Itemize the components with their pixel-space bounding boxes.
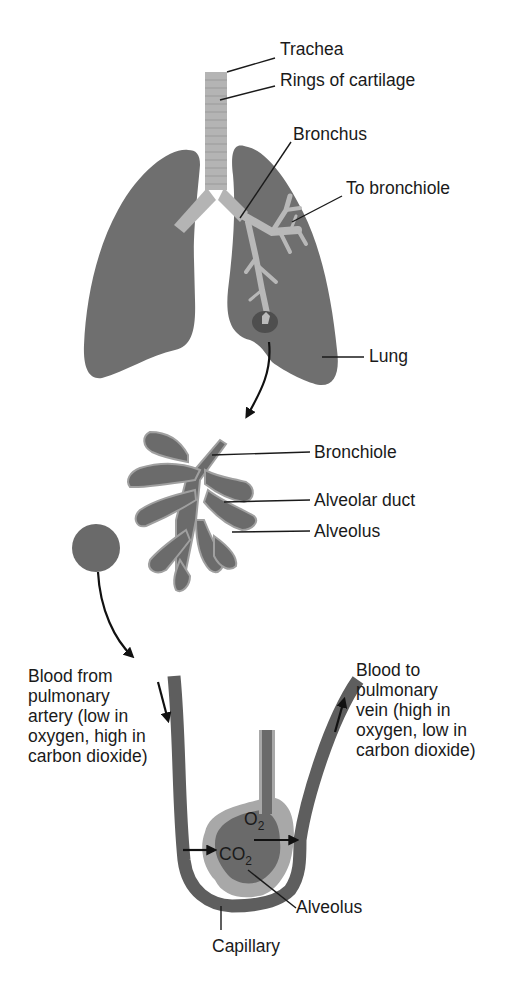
alveolus-sphere <box>72 524 120 572</box>
label-rings-of-cartilage: Rings of cartilage <box>280 70 415 90</box>
trachea <box>205 72 227 190</box>
arrow-blood-in <box>158 682 168 720</box>
respiratory-system-diagram: Trachea Rings of cartilage Bronchus To b… <box>0 0 520 994</box>
bronchiole-cluster <box>128 432 256 591</box>
label-alveolar-duct: Alveolar duct <box>314 490 415 510</box>
label-trachea: Trachea <box>280 39 344 59</box>
label-alveolus-top: Alveolus <box>314 521 380 541</box>
arrow-alveolus-to-capillary <box>98 572 132 656</box>
right-lung <box>227 146 338 385</box>
label-blood-from-artery: Blood from pulmonary artery (low in oxyg… <box>28 666 151 766</box>
label-blood-to-vein: Blood to pulmonary vein (high in oxygen,… <box>356 660 476 760</box>
label-capillary: Capillary <box>212 936 280 956</box>
label-lung: Lung <box>369 346 408 366</box>
label-to-bronchiole: To bronchiole <box>346 178 450 198</box>
label-alveolus-bottom: Alveolus <box>296 897 362 917</box>
label-bronchiole: Bronchiole <box>314 442 397 462</box>
left-lung <box>84 150 200 378</box>
lungs-illustration <box>84 72 338 385</box>
label-bronchus: Bronchus <box>293 124 367 144</box>
